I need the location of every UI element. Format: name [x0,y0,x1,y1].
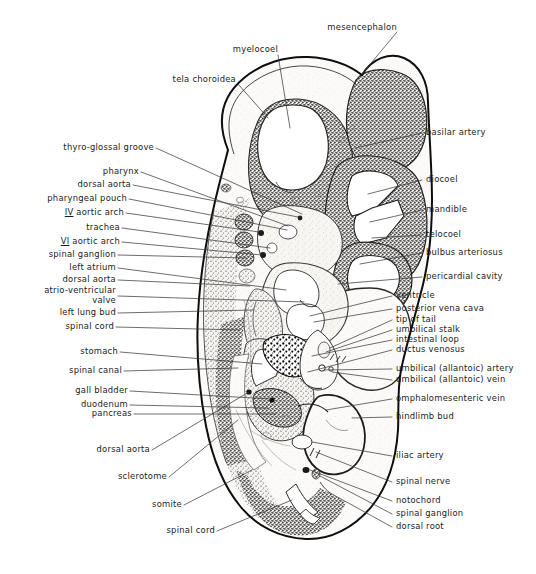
label-dorsal-aorta-3: dorsal aorta [97,445,150,454]
label-atrio-ventricular-valve: atrio-ventricularvalve [44,286,116,305]
label-mandible: mandible [426,205,467,214]
label-gall-bladder: gall bladder [75,386,128,395]
label-spinal-nerve: spinal nerve [396,477,450,486]
umbilical-artery [319,365,325,371]
vi-aortic-arch-text: aortic arch [69,236,120,246]
label-posterior-vena-cava: posterior vena cava [396,304,484,313]
label-mesencephalon: mesencephalon [327,23,397,32]
umbilical-vein [329,367,333,371]
dorsal-aorta-mid [246,389,251,394]
label-spinal-ganglion-right: spinal ganglion [396,509,463,518]
label-stomach: stomach [80,347,118,356]
label-pericardial-cavity: pericardial cavity [426,272,503,281]
label-ventricle: ventricle [396,291,435,300]
atrio-ventricular-text: atrio-ventricular [44,285,116,295]
notochord-dot [303,467,310,473]
trachea [267,243,277,253]
spinal-ganglion-lower [312,469,320,479]
label-telocoel: telocoel [426,230,461,239]
umbilical-stalk [318,342,330,358]
label-bulbus-arteriosus: bulbus arteriosus [426,248,503,257]
label-ductus-venosus: ductus venosus [396,345,465,354]
label-pharynx: pharynx [103,167,139,176]
myelocoel-cavity [258,105,329,190]
label-notochord: notochord [396,496,441,505]
pharyngeal-pouch [279,225,297,239]
label-trachea: trachea [86,223,120,232]
label-basilar-artery: basilar artery [426,128,486,137]
label-intestinal-loop: intestinal loop [396,335,459,344]
label-hindlimb-bud: hindlimb bud [396,412,454,421]
label-umbilical-allantoic-artery: umbilical (allantoic) artery [396,364,514,373]
label-spinal-ganglion-left: spinal ganglion [49,250,116,259]
label-pancreas: pancreas [92,409,132,418]
roman-numeral-iv: IV [65,207,74,217]
label-spinal-cord-1: spinal cord [65,322,114,331]
label-iv-aortic-arch: IV aortic arch [65,208,124,217]
iliac-artery [292,435,312,449]
label-dorsal-root: dorsal root [396,522,444,531]
dorsal-aorta-upper [298,216,303,221]
label-omphalomesenteric-vein: omphalomesenteric vein [396,394,505,403]
label-somite: somite [152,500,182,509]
label-spinal-cord-2: spinal cord [166,526,215,535]
embryo-section-figure: mesencephalon myelocoel tela choroidea b… [0,0,536,574]
roman-numeral-vi: VI [61,236,70,246]
label-pharyngeal-pouch: pharyngeal pouch [47,194,127,203]
aortic-arch-vi [260,252,266,258]
label-umbilical-stalk: umbilical stalk [396,325,460,334]
label-sclerotome: sclerotome [118,472,167,481]
label-diocoel: diocoel [426,175,458,184]
label-tip-of-tail: tip of tail [396,315,436,324]
label-myelocoel: myelocoel [233,45,278,54]
label-umbilical-allantoic-vein: umbilical (allantoic) vein [396,375,506,384]
iv-aortic-arch-text: aortic arch [73,207,124,217]
label-left-atrium: left atrium [69,263,116,272]
label-iliac-artery: iliac artery [396,451,444,460]
valve-text: valve [92,295,116,305]
label-dorsal-aorta-1: dorsal aorta [78,180,131,189]
label-thyro-glossal-groove: thyro-glossal groove [63,143,154,152]
label-vi-aortic-arch: VI aortic arch [61,237,120,246]
label-left-lung-bud: left lung bud [60,308,116,317]
gall-bladder-dot [269,397,274,402]
label-dorsal-aorta-2: dorsal aorta [63,275,116,284]
label-spinal-canal: spinal canal [69,366,122,375]
label-tela-choroidea: tela choroidea [173,75,236,84]
aortic-arch-iv [258,230,264,236]
